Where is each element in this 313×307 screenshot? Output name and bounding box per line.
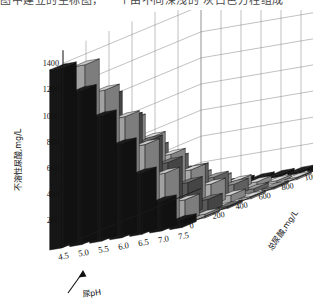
chart-figure: 图中建立的坐标图， 一个由不同深浅的 灰白色方柱组成 2004006008001… [0, 0, 313, 307]
svg-text:总尿酸,mg/L: 总尿酸,mg/L [265, 208, 300, 252]
svg-text:6.5: 6.5 [137, 237, 149, 249]
clipped-caption: 图中建立的坐标图， 一个由不同深浅的 灰白色方柱组成 [0, 0, 313, 5]
svg-text:200: 200 [212, 210, 226, 221]
svg-text:800: 800 [47, 138, 59, 147]
clipped-caption-text: 图中建立的坐标图， 一个由不同深浅的 灰白色方柱组成 [0, 0, 313, 5]
chart-stage: 2004006008001000120014004.55.05.56.06.57… [0, 10, 313, 307]
svg-text:不溶性尿酸,mg/L: 不溶性尿酸,mg/L [13, 128, 23, 191]
svg-text:1000: 1000 [43, 112, 59, 121]
svg-text:6.0: 6.0 [117, 240, 129, 252]
svg-text:5.0: 5.0 [77, 247, 89, 259]
svg-text:7.5: 7.5 [177, 230, 189, 242]
svg-text:尿pH: 尿pH [82, 288, 102, 300]
svg-text:400: 400 [47, 190, 59, 199]
svg-text:800: 800 [281, 181, 295, 192]
bar-chart-3d: 2004006008001000120014004.55.05.56.06.57… [0, 10, 313, 307]
svg-text:400: 400 [235, 200, 249, 211]
svg-text:600: 600 [47, 164, 59, 173]
svg-text:1000: 1000 [304, 171, 313, 183]
svg-text:5.5: 5.5 [97, 243, 109, 255]
svg-text:200: 200 [47, 216, 59, 225]
svg-text:4.5: 4.5 [57, 250, 69, 262]
svg-text:600: 600 [258, 191, 272, 202]
svg-text:7.0: 7.0 [157, 233, 169, 245]
svg-text:1200: 1200 [43, 85, 59, 94]
svg-text:1400: 1400 [43, 59, 59, 68]
